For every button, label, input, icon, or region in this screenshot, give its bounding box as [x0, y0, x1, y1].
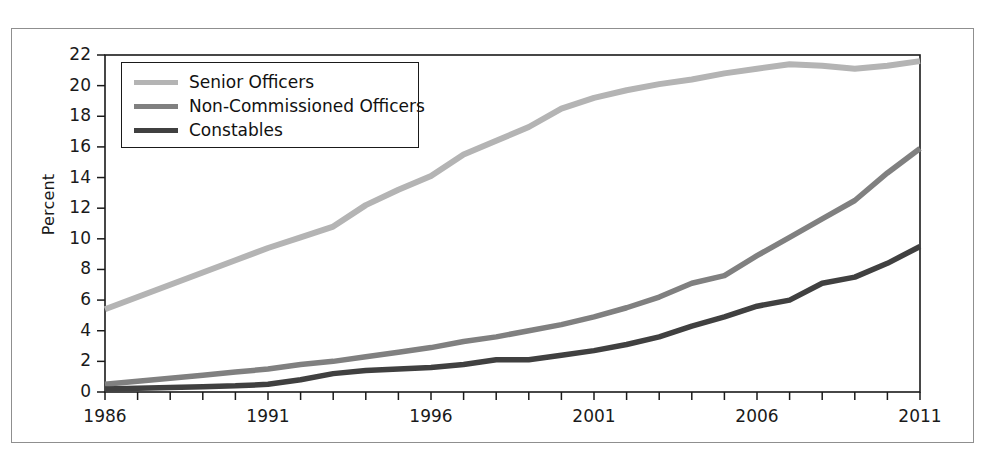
figure: Percent 0246810121416182022 198619911996… [0, 0, 989, 472]
x-tick-label: 1986 [70, 406, 140, 426]
legend-label: Constables [189, 122, 283, 139]
y-tick-label: 4 [51, 320, 91, 340]
plot-area: Percent 0246810121416182022 198619911996… [0, 0, 989, 472]
legend-swatch [134, 80, 178, 85]
y-axis-ticks [97, 55, 105, 392]
legend-item: Senior Officers [134, 70, 418, 94]
y-tick-label: 6 [51, 289, 91, 309]
y-tick-label: 20 [51, 75, 91, 95]
x-tick-label: 2006 [722, 406, 792, 426]
legend-swatch [134, 104, 178, 109]
y-tick-label: 2 [51, 350, 91, 370]
legend-swatch [134, 128, 178, 133]
y-tick-label: 10 [51, 228, 91, 248]
legend-item: Constables [134, 118, 418, 142]
x-tick-label: 1996 [396, 406, 466, 426]
legend-label: Non-Commissioned Officers [189, 98, 425, 115]
x-tick-label: 1991 [233, 406, 303, 426]
y-tick-label: 0 [51, 381, 91, 401]
series-line-constables [105, 246, 920, 388]
legend-label: Senior Officers [189, 74, 314, 91]
x-tick-label: 2001 [559, 406, 629, 426]
y-tick-label: 14 [51, 167, 91, 187]
x-tick-label: 2011 [885, 406, 955, 426]
x-axis-ticks [105, 392, 920, 400]
y-tick-label: 22 [51, 44, 91, 64]
legend-item: Non-Commissioned Officers [134, 94, 418, 118]
y-tick-label: 12 [51, 197, 91, 217]
y-tick-label: 18 [51, 105, 91, 125]
y-tick-label: 8 [51, 258, 91, 278]
y-tick-label: 16 [51, 136, 91, 156]
chart-legend: Senior OfficersNon-Commissioned Officers… [121, 62, 419, 148]
